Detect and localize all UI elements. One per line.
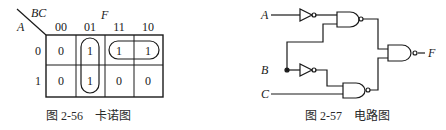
output-f-label: F — [427, 46, 436, 60]
nand-gate-top — [337, 12, 363, 27]
cell-0-00: 0 — [58, 44, 64, 58]
cell-1-00: 0 — [58, 74, 64, 88]
col-header-00: 00 — [55, 20, 67, 34]
nand-gate-output — [388, 45, 417, 61]
circuit-caption: 图 2-57 电路图 — [305, 108, 390, 123]
cell-0-10: 1 — [145, 44, 151, 58]
logic-circuit — [271, 9, 425, 98]
input-c-label: C — [261, 87, 270, 101]
function-label: F — [100, 8, 109, 22]
input-b-label: B — [261, 63, 269, 77]
cell-0-01: 1 — [87, 44, 93, 58]
col-header-10: 10 — [142, 20, 154, 34]
cell-1-10: 0 — [145, 74, 151, 88]
junction-dot — [285, 68, 289, 72]
col-var-label: BC — [31, 6, 47, 20]
kmap-caption: 图 2-56 卡诺图 — [46, 109, 131, 123]
col-header-11: 11 — [113, 20, 125, 34]
not-gate-a — [300, 9, 316, 21]
input-a-label: A — [260, 8, 269, 22]
cell-1-01: 1 — [87, 74, 93, 88]
kmap-labels: BC A F 00 01 11 10 0 1 0 1 1 1 0 1 0 0 — [16, 6, 154, 88]
row-header-0: 0 — [35, 44, 41, 58]
row-header-1: 1 — [35, 74, 41, 88]
nand-gate-bottom — [343, 83, 370, 98]
cell-1-11: 0 — [116, 74, 122, 88]
row-var-label: A — [16, 20, 25, 34]
cell-0-11: 1 — [116, 44, 122, 58]
not-gate-b — [300, 64, 316, 76]
figure-canvas: BC A F 00 01 11 10 0 1 0 1 1 1 0 1 0 0 图… — [0, 0, 446, 130]
col-header-01: 01 — [84, 20, 96, 34]
